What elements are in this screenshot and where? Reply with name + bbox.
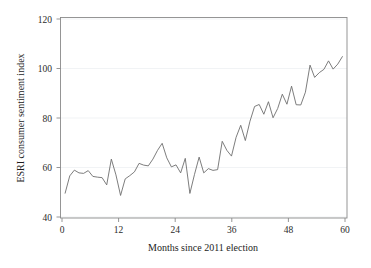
x-tick-label-48: 48 bbox=[284, 225, 294, 235]
y-tick-labels: 120 100 80 60 40 bbox=[38, 15, 53, 223]
data-series-line bbox=[65, 57, 342, 196]
y-axis-title: ESRI consumer sentiment index bbox=[15, 53, 26, 182]
x-tick-labels: 0 12 24 36 48 60 bbox=[60, 225, 350, 235]
y-tick-label-100: 100 bbox=[38, 64, 53, 74]
y-tick-label-80: 80 bbox=[43, 114, 53, 124]
x-tick-label-36: 36 bbox=[227, 225, 237, 235]
x-tickmarks bbox=[62, 218, 345, 222]
x-tick-label-60: 60 bbox=[340, 225, 350, 235]
gridlines bbox=[61, 19, 348, 217]
chart-figure: 120 100 80 60 40 0 12 24 36 48 60 ESRI c… bbox=[0, 0, 371, 268]
x-tick-label-12: 12 bbox=[114, 225, 124, 235]
line-chart: 120 100 80 60 40 0 12 24 36 48 60 ESRI c… bbox=[0, 0, 371, 268]
x-axis-title: Months since 2011 election bbox=[148, 242, 258, 253]
x-tick-label-24: 24 bbox=[170, 225, 180, 235]
y-tick-label-120: 120 bbox=[38, 15, 53, 25]
y-tick-label-40: 40 bbox=[43, 213, 53, 223]
x-tick-label-0: 0 bbox=[60, 225, 65, 235]
y-tick-label-60: 60 bbox=[43, 163, 53, 173]
y-tickmarks bbox=[57, 19, 61, 217]
